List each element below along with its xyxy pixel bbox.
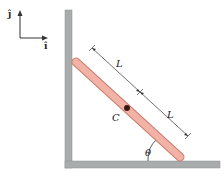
i-arrow-icon (42, 36, 48, 41)
upper-length-label: L (115, 58, 123, 69)
rod-wall-diagram: ĵ î θ C L L (0, 0, 224, 176)
floor (65, 161, 220, 168)
j-arrow-icon (18, 10, 23, 16)
angle-label: θ (145, 147, 151, 158)
vertical-wall (65, 10, 72, 168)
j-hat-label: ĵ (7, 9, 12, 19)
lower-length-label: L (166, 109, 174, 120)
center-of-mass-dot (124, 105, 130, 111)
i-hat-label: î (44, 41, 48, 51)
center-of-mass-label: C (112, 112, 120, 123)
dim-arrow-icon (184, 133, 188, 136)
dim-arrow-icon (136, 89, 140, 92)
dim-arrow-icon (140, 92, 144, 95)
wall-and-floor (65, 10, 220, 168)
dim-arrow-icon (92, 48, 96, 51)
unit-vector-axes: ĵ î (7, 9, 48, 51)
